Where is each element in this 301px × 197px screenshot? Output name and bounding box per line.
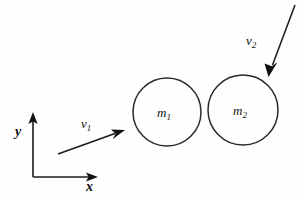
velocity-one-label: v1 bbox=[81, 116, 91, 133]
mass-two-symbol: m bbox=[233, 103, 242, 118]
mass-two-subscript: 2 bbox=[242, 110, 247, 120]
velocity-two-label: v2 bbox=[246, 33, 257, 50]
velocity-one-shaft bbox=[58, 134, 115, 155]
velocity-one-subscript: 1 bbox=[87, 123, 92, 133]
x-axis-label: x bbox=[85, 179, 93, 194]
mass-two-label: m2 bbox=[233, 103, 247, 120]
mass-one-label: m1 bbox=[157, 105, 171, 122]
y-axis-label: y bbox=[13, 124, 22, 139]
diagram-canvas: y x v1 m1 m2 v2 bbox=[0, 0, 301, 197]
velocity-two-arrowhead bbox=[265, 62, 278, 77]
velocity-two-shaft bbox=[273, 5, 296, 65]
velocity-two-subscript: 2 bbox=[252, 40, 257, 50]
mass-one-symbol: m bbox=[157, 105, 166, 120]
physics-diagram: y x v1 m1 m2 v2 bbox=[0, 0, 301, 197]
mass-one-subscript: 1 bbox=[166, 112, 171, 122]
